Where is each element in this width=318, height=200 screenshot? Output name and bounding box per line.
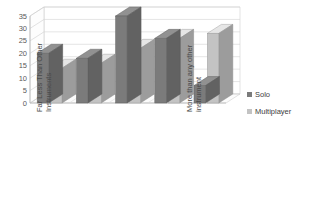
- legend-label-multiplayer: Multiplayer: [255, 105, 291, 118]
- legend-swatch-multiplayer: [247, 109, 252, 114]
- legend-item-multiplayer: Multiplayer: [247, 105, 291, 118]
- legend-item-solo: Solo: [247, 88, 291, 101]
- y-axis-tick-label: 30: [19, 24, 27, 33]
- legend-swatch-solo: [247, 92, 252, 97]
- bar-solo-3: [155, 29, 180, 103]
- y-axis-tick-label: 15: [19, 61, 27, 70]
- bar-solo-2: [116, 7, 141, 103]
- y-axis-tick-label: 20: [19, 49, 27, 58]
- y-axis-tick-label: 0: [23, 99, 27, 108]
- category-label-last-line1: More than any other: [185, 45, 194, 112]
- category-label-last: More than any other instrument: [186, 45, 203, 112]
- bar-chart: · · · · · · · · · 05101520253035 Far Les…: [0, 0, 318, 200]
- bar-solo-1: [76, 49, 101, 103]
- y-axis-tick-label: 25: [19, 36, 27, 45]
- category-label-first-line1: Far Less Than Other: [35, 43, 44, 112]
- y-axis-tick-label: 10: [19, 74, 27, 83]
- category-label-first: Far Less Than Other Instruments: [36, 43, 53, 112]
- legend-label-solo: Solo: [255, 88, 270, 101]
- y-axis-tick-label: 35: [19, 12, 27, 21]
- category-label-first-line2: Instruments: [45, 43, 54, 112]
- chart-legend: Solo Multiplayer: [247, 88, 291, 122]
- y-axis-tick-label: 5: [23, 86, 27, 95]
- category-label-last-line2: instrument: [195, 45, 204, 112]
